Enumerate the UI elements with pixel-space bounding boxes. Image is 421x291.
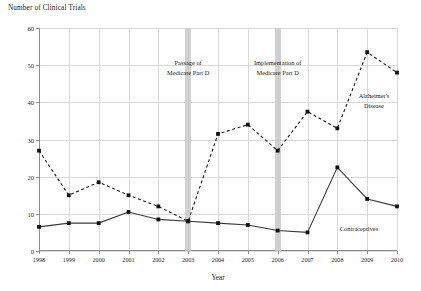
annotation-passage: Passage ofMedicare Part D [167, 58, 209, 78]
y-axis-title: Number of Clinical Trials [8, 4, 86, 12]
data-point-marker [276, 149, 280, 153]
data-point-marker [97, 180, 101, 184]
y-tick-label: 0 [31, 248, 34, 255]
x-tick-label: 2008 [331, 256, 343, 263]
series-label-contraceptives: Contraceptives [340, 224, 378, 234]
x-tick-mark [158, 251, 159, 254]
x-tick-label: 2007 [301, 256, 313, 263]
series-label-alzheimers: Alzheimer'sDisease [359, 91, 390, 110]
series-label-line-2: Disease [359, 101, 390, 111]
data-point-marker [276, 229, 280, 233]
x-tick-label: 2004 [212, 256, 224, 263]
x-tick-label: 2006 [271, 256, 283, 263]
data-point-marker [335, 126, 339, 130]
x-tick-label: 2002 [152, 256, 164, 263]
x-tick-mark [337, 251, 338, 254]
y-tick-label: 50 [27, 62, 34, 69]
data-point-marker [395, 71, 399, 75]
x-tick-mark [367, 251, 368, 254]
data-point-marker [97, 221, 101, 225]
data-point-marker [365, 197, 369, 201]
data-point-marker [37, 225, 41, 229]
data-point-marker [37, 149, 41, 153]
data-point-marker [335, 165, 339, 169]
x-tick-label: 2005 [242, 256, 254, 263]
x-tick-label: 1999 [63, 256, 75, 263]
data-point-marker [246, 223, 250, 227]
x-tick-mark [99, 251, 100, 254]
data-point-marker [127, 210, 131, 214]
annotation-line-1: Implementation of [254, 58, 301, 68]
x-tick-mark [69, 251, 70, 254]
y-tick-label: 20 [27, 173, 34, 180]
x-tick-label: 1998 [33, 256, 45, 263]
y-tick-label: 40 [27, 99, 34, 106]
x-tick-mark [218, 251, 219, 254]
x-tick-label: 2003 [182, 256, 194, 263]
clinical-trials-line-chart: Number of Clinical Trials 01020304050601… [0, 0, 421, 291]
y-tick-label: 60 [27, 25, 34, 32]
data-point-marker [395, 205, 399, 209]
data-point-marker [186, 219, 190, 223]
x-tick-label: 2010 [391, 256, 403, 263]
x-tick-mark [39, 251, 40, 254]
data-point-marker [127, 193, 131, 197]
series-label-line-1: Alzheimer's [359, 91, 390, 101]
data-point-marker [67, 193, 71, 197]
annotation-implementation: Implementation ofMedicare Part D [254, 58, 301, 78]
x-tick-label: 2001 [122, 256, 134, 263]
series-label-line-1: Contraceptives [340, 224, 378, 234]
x-tick-mark [248, 251, 249, 254]
data-point-marker [156, 218, 160, 222]
x-tick-mark [188, 251, 189, 254]
data-point-marker [365, 50, 369, 54]
data-point-marker [216, 221, 220, 225]
x-tick-label: 2000 [92, 256, 104, 263]
y-tick-label: 10 [27, 210, 34, 217]
x-tick-mark [278, 251, 279, 254]
series-line-alzheimer-s-disease [39, 52, 397, 221]
annotation-line-2: Medicare Part D [167, 68, 209, 78]
x-tick-label: 2009 [361, 256, 373, 263]
data-point-marker [246, 123, 250, 127]
gridline-vertical [397, 28, 398, 251]
data-point-marker [156, 205, 160, 209]
x-tick-mark [129, 251, 130, 254]
data-point-marker [306, 231, 310, 235]
x-tick-mark [308, 251, 309, 254]
data-point-marker [67, 221, 71, 225]
x-axis-title: Year [211, 274, 224, 282]
plot-area: 0102030405060199819992000200120022003200… [39, 28, 397, 251]
annotation-line-2: Medicare Part D [254, 68, 301, 78]
data-point-marker [306, 110, 310, 114]
x-tick-mark [397, 251, 398, 254]
annotation-line-1: Passage of [167, 58, 209, 68]
y-tick-label: 30 [27, 136, 34, 143]
data-point-marker [216, 132, 220, 136]
series-lines-layer [39, 28, 397, 251]
